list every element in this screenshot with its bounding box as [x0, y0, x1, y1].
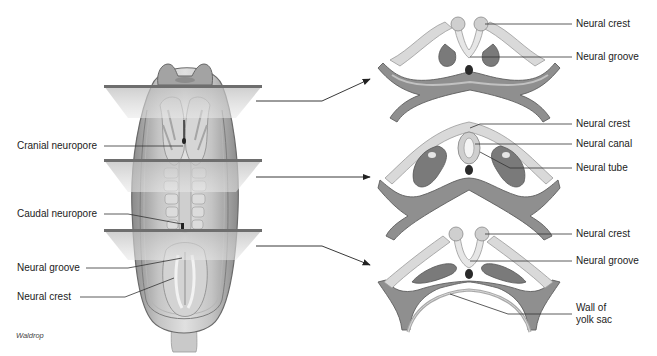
- label-wall-of-yolk-sac-line2: yolk sac: [576, 314, 612, 326]
- cross-section-bottom: [378, 227, 560, 332]
- section-plane-top: [104, 85, 262, 118]
- arrow-to-section-bottom: [256, 246, 370, 265]
- label-cranial-neuropore: Cranial neuropore: [17, 140, 97, 152]
- label-bottom-neural-groove: Neural groove: [576, 255, 639, 267]
- label-middle-neural-crest: Neural crest: [576, 118, 630, 130]
- label-embryo-neural-groove: Neural groove: [17, 262, 80, 274]
- cross-section-middle: [378, 122, 560, 240]
- section-plane-bottom: [104, 229, 262, 260]
- neural-tube-formation-diagram: Cranial neuropore Caudal neuropore Neura…: [0, 0, 657, 356]
- artist-credit: Waldrop: [16, 331, 44, 340]
- label-wall-of-yolk-sac-line1: Wall of: [576, 302, 606, 314]
- label-top-neural-groove: Neural groove: [576, 51, 639, 63]
- section-plane-middle: [104, 159, 262, 192]
- cross-section-top: [378, 17, 560, 122]
- label-caudal-neuropore: Caudal neuropore: [17, 208, 97, 220]
- label-bottom-neural-crest: Neural crest: [576, 228, 630, 240]
- label-middle-neural-canal: Neural canal: [576, 138, 632, 150]
- diagram-artwork: [0, 0, 657, 356]
- arrow-to-section-top: [256, 79, 370, 101]
- label-top-neural-crest: Neural crest: [576, 18, 630, 30]
- label-embryo-neural-crest: Neural crest: [17, 291, 71, 303]
- label-middle-neural-tube: Neural tube: [576, 162, 628, 174]
